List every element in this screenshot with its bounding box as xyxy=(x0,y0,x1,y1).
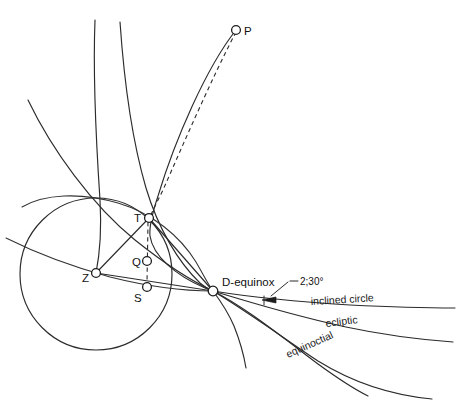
astronomy-diagram: P T Q S Z D-equinox 2;30° inclined circl… xyxy=(0,0,461,402)
point-marker-z xyxy=(92,269,101,278)
point-marker-s xyxy=(143,283,152,292)
dashed-arc-p-to-t xyxy=(150,32,236,217)
horizon-arc-left xyxy=(6,238,213,291)
arc-below-d-continuation xyxy=(213,291,246,368)
curve-label-inclined-circle: inclined circle xyxy=(310,291,374,307)
point-marker-t xyxy=(145,214,154,223)
equinoctial-great-circle xyxy=(28,100,368,396)
secondary-meridian-curve xyxy=(120,22,213,291)
curve-label-ecliptic: ecliptic xyxy=(325,313,358,329)
point-label-z: Z xyxy=(82,272,89,284)
angle-value-label: 2;30° xyxy=(300,276,323,287)
point-label-s: S xyxy=(134,292,142,304)
meridian-curve-through-zenith xyxy=(94,20,100,273)
point-marker-q xyxy=(143,257,152,266)
dashed-segment-t-to-s xyxy=(147,222,148,283)
point-markers xyxy=(92,26,241,296)
point-label-q: Q xyxy=(132,256,141,268)
point-label-d-equinox: D-equinox xyxy=(222,276,275,288)
point-marker-d-equinox xyxy=(208,286,218,296)
point-label-t: T xyxy=(134,212,141,224)
arc-through-p-and-t xyxy=(150,30,236,291)
point-marker-p xyxy=(232,26,241,35)
point-label-p: P xyxy=(244,25,252,37)
diagram-canvas: P T Q S Z D-equinox 2;30° inclined circl… xyxy=(0,0,461,402)
